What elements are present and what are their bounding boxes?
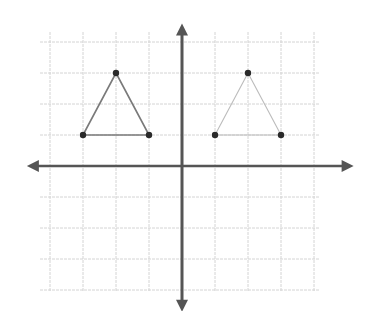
x-axis-left-arrow-icon	[27, 160, 39, 172]
y-axis-up-arrow-icon	[176, 23, 188, 35]
vertex-point	[245, 70, 251, 76]
vertex-point	[146, 132, 152, 138]
vertex-point	[80, 132, 86, 138]
vertex-point	[278, 132, 284, 138]
coordinate-plane	[0, 0, 369, 311]
axes	[27, 23, 354, 311]
vertex-point	[113, 70, 119, 76]
y-axis-down-arrow-icon	[176, 300, 188, 311]
x-axis-right-arrow-icon	[342, 160, 354, 172]
vertex-point	[212, 132, 218, 138]
coordinate-plane-figure	[0, 0, 369, 311]
grid-lines	[40, 32, 320, 292]
